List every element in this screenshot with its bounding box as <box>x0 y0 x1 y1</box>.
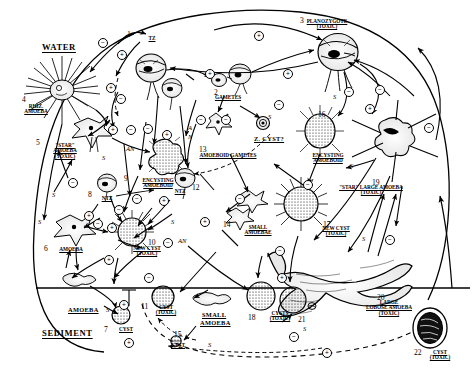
minus-sign: − <box>68 178 78 188</box>
stage-number-14: 14 <box>223 220 231 229</box>
minus-sign: − <box>196 115 206 125</box>
tag-s-5: S <box>268 113 271 120</box>
tag-s-10: S <box>208 341 211 348</box>
stage-number-11: 11 <box>141 302 148 311</box>
minus-sign: − <box>289 332 299 342</box>
stage-number-5: 5 <box>36 138 40 147</box>
plus-sign: + <box>108 125 118 135</box>
tag-s-1: S <box>102 154 105 161</box>
plus-sign: + <box>200 217 210 227</box>
minus-sign: − <box>274 100 284 110</box>
plus-sign: + <box>205 69 215 79</box>
tag-s-11: S <box>303 325 306 332</box>
tag-s-2: S <box>52 191 55 198</box>
stage-number-8: 8 <box>88 190 92 199</box>
stage-number-7: 7 <box>104 325 108 334</box>
stage-number-22: 22 <box>414 348 422 357</box>
stage-caption-cysts-toxic-sediment: CYSTS(TOXIC) <box>262 311 298 322</box>
plus-sign: + <box>254 31 264 41</box>
plus-sign: + <box>124 338 134 348</box>
minus-sign: − <box>163 238 173 248</box>
minus-sign: − <box>93 219 103 229</box>
tag-s-6: S <box>333 93 336 100</box>
tag-s-7: S <box>350 162 353 169</box>
minus-sign: − <box>275 246 285 256</box>
stage-caption-rhizopodial-amoeba: RHIZ.AMOEBA <box>14 104 58 115</box>
plus-sign: + <box>117 50 127 60</box>
z-cyst-label: Z. CYST? <box>254 135 284 142</box>
minus-sign: − <box>143 124 153 134</box>
small-amoeba-sed-label: SMALL <box>202 311 226 318</box>
plus-sign: + <box>84 211 94 221</box>
stage-caption-gametes: GAMETES <box>206 95 250 100</box>
stage-caption-star-large-amoeba-toxic: "STAR" LARGE AMOEBA(TOXIC) <box>324 185 418 196</box>
new-cyst-right-shape <box>274 177 328 231</box>
plus-sign: + <box>283 69 293 79</box>
life-cycle-diagram: WATERSEDIMENT 1TZ2GAMETES3PLANOZYGOTE(TO… <box>0 0 475 382</box>
stage-caption-cyst-sediment-small: CYST <box>165 343 191 348</box>
stage-caption-large-lobose-amoeba-toxic: LARGELOBOSE AMOEBA(TOXIC) <box>350 300 428 316</box>
amoeba-sediment-label: AMOEBA <box>68 306 99 313</box>
plus-sign: + <box>119 300 129 310</box>
planozygote-shape <box>318 34 358 93</box>
tag-s-3: S <box>38 218 41 225</box>
stage-number-6: 6 <box>44 244 48 253</box>
plus-sign: + <box>365 104 375 114</box>
stage-caption-small-amoebae-water: SMALLAMOEBAE <box>238 225 278 236</box>
stage-number-12: 12 <box>192 183 200 192</box>
amoeba-sediment-shape <box>63 273 96 286</box>
small-amoeba-sediment-shape <box>193 293 231 306</box>
sediment-zone-label: SEDIMENT <box>42 328 93 338</box>
stage-caption-cyst-toxic-sediment: CYST(TOXIC) <box>150 305 182 316</box>
stage-caption-cyst-sediment: CYST <box>113 327 139 332</box>
plus-sign: + <box>277 273 287 283</box>
tz-small-zoospore-shape <box>162 79 182 111</box>
tag-s-9: S <box>106 306 109 313</box>
cyst-18-shape <box>247 282 275 310</box>
tag-a-2: A <box>188 124 192 131</box>
stage-caption-ntz-nontoxic-zoospore-mid: NTZ <box>168 189 192 194</box>
small-amoeba-sed-label2: AMOEBA <box>200 319 231 326</box>
minus-sign: − <box>375 85 385 95</box>
minus-sign: − <box>221 115 231 125</box>
stage-number-18: 18 <box>248 313 256 322</box>
minus-sign: − <box>385 235 395 245</box>
minus-sign: − <box>98 38 108 48</box>
plus-sign: + <box>322 348 332 358</box>
stage-number-4: 4 <box>22 95 26 104</box>
stage-caption-ntz-nontoxic-zoospore-left: NTZ <box>96 196 118 201</box>
star-large-amoeba-shape <box>352 100 438 182</box>
tag-an-3: AN <box>178 237 186 244</box>
minus-sign: − <box>303 180 313 190</box>
stage-caption-cyst-toxic-encapsulated: CYST(TOXIC) <box>424 350 456 361</box>
stage-number-15: 15 <box>174 330 182 339</box>
plus-sign: + <box>159 196 169 206</box>
stage-caption-new-cyst-toxic-right: NEW CYST(TOXIC) <box>308 226 364 237</box>
stage-number-21: 21 <box>298 315 306 324</box>
minus-sign: − <box>116 94 126 104</box>
minus-sign: − <box>114 205 124 215</box>
stage-number-9: 9 <box>124 174 128 183</box>
plus-sign: + <box>107 223 117 233</box>
tag-n-2: N <box>188 133 192 140</box>
minus-sign: − <box>144 273 154 283</box>
stage-caption-encysting-amoeboid-right: ENCYSTINGAMOEBOID <box>300 153 356 164</box>
stage-caption-star-amoeba-toxic: "STAR"AMOEBA(TOXIC) <box>44 143 86 159</box>
stage-caption-planozygote-toxic: PLANOZYGOTE(TOXIC) <box>296 19 358 30</box>
minus-sign: − <box>235 194 245 204</box>
tag-an-1: AN <box>126 145 134 152</box>
stage-number-1: 1 <box>127 30 131 39</box>
tag-s-4: S <box>171 218 174 225</box>
plus-sign: + <box>106 83 116 93</box>
minus-sign: − <box>344 87 354 97</box>
stage-caption-amoeboid-gametes: AMOEBOID GAMETES <box>190 153 266 158</box>
minus-sign: − <box>424 123 434 133</box>
stage-number-16: 16 <box>318 110 326 119</box>
tz-zoospore-shape <box>136 54 166 100</box>
stage-caption-tz-flagellated-zoospore: TZ <box>141 36 163 41</box>
minus-sign: − <box>132 194 142 204</box>
stage-caption-amoeba: AMOEBA <box>52 247 90 252</box>
plus-sign: + <box>104 255 114 265</box>
plus-sign: + <box>162 130 172 140</box>
tag-s-8: S <box>362 235 365 242</box>
